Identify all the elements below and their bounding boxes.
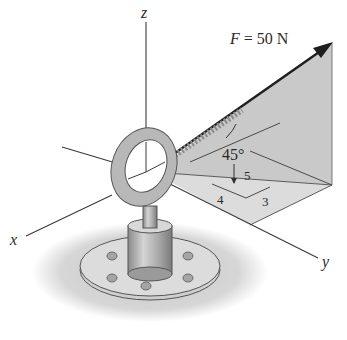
angle-label: 45°: [222, 146, 244, 163]
slope-leg-4-label: 4: [217, 192, 224, 207]
force-plane: [152, 43, 332, 185]
cylinder-bottom: [128, 267, 172, 281]
diagram-canvas: z x y F = 50 N 45° 5 4 3: [0, 0, 347, 340]
x-axis-label: x: [9, 231, 17, 248]
slope-leg-3-label: 3: [262, 194, 269, 209]
y-axis-label: y: [320, 253, 330, 271]
eyebolt-shank: [143, 206, 157, 228]
z-axis-label: z: [140, 4, 148, 21]
eyebolt-force-diagram: z x y F = 50 N 45° 5 4 3: [0, 0, 347, 340]
slope-hyp-label: 5: [244, 168, 251, 183]
force-label: F = 50 N: [229, 30, 289, 47]
